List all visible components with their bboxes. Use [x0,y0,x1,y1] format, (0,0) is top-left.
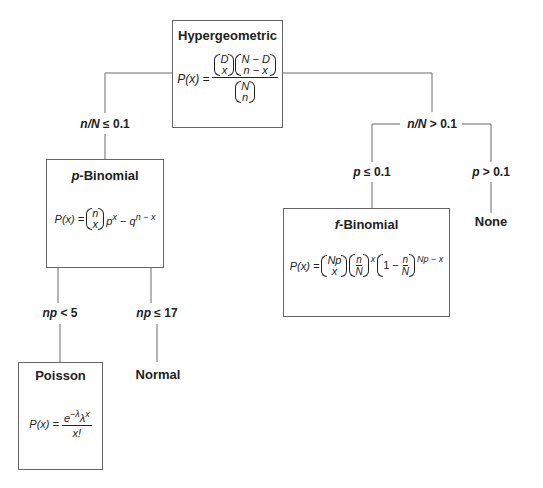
binom-bottom: n − x [244,65,268,76]
edge-label-n-over-N-gt: n/N > 0.1 [404,117,460,131]
binom-bottom: x [332,266,338,277]
node-hypergeometric: Hypergeometric P(x) = D x N − D n − x N [172,20,283,128]
binomial-coefficient: D x [214,54,234,76]
denominator: x! [73,426,82,439]
node-poisson: Poisson P(x) = e−λλx x! [18,362,103,470]
num-exponent: −λ [70,409,80,419]
binomial-coefficient: N − D n − x [235,54,275,76]
frac-denominator: N [355,266,362,277]
binom-bottom: x [222,65,228,76]
hypergeometric-formula: P(x) = D x N − D n − x N n [173,54,282,103]
poisson-formula: P(x) = e−λλx x! [19,409,102,439]
edge-label-p-le: p ≤ 0.1 [350,165,393,179]
node-title: p-Binomial [47,168,163,183]
label-op: ≤ 0.1 [100,117,130,131]
fraction-paren: n N [349,254,368,277]
label-op: ≤ 0.1 [361,165,391,179]
leaf-normal: Normal [136,367,181,382]
node-title: Poisson [19,368,102,383]
title-suffix: -Binomial [79,168,138,183]
operator: − [117,214,130,226]
formula-lhs: P(x) = [290,260,320,272]
label-var: n/N [407,117,426,131]
one-minus: 1 − [383,260,399,271]
edge-label-n-over-N-le: n/N ≤ 0.1 [77,117,132,131]
label-op: > 0.1 [426,117,456,131]
node-title: f-Binomial [284,217,449,232]
one-minus-paren: 1 − n N [377,254,415,277]
p-binomial-formula: P(x) = n x px − qn − x [47,208,163,230]
binom-bottom: n [242,92,248,103]
binom-top: Np [327,255,341,266]
formula-fraction: e−λλx x! [62,409,92,439]
f-binomial-formula: P(x) = Np x n N x 1 − n N Np − x [284,254,449,277]
binomial-coefficient: N n [235,81,255,103]
binomial-coefficient: Np x [321,255,347,277]
node-f-binomial: f-Binomial P(x) = Np x n N x 1 − n N Np … [283,208,450,317]
frac-numerator: n [403,254,409,266]
formula-lhs: P(x) = [177,72,209,86]
exponent: x [371,254,376,264]
term-exponent: n − x [136,212,156,222]
formula-lhs: P(x) = [29,418,59,430]
edge-label-p-gt: p > 0.1 [469,165,513,179]
binomial-coefficient: n x [86,208,104,230]
leaf-none: None [475,214,508,229]
decision-tree-diagram: Hypergeometric P(x) = D x N − D n − x N [0,0,543,488]
node-p-binomial: p-Binomial P(x) = n x px − qn − x [46,159,164,268]
label-var: np [42,306,57,320]
title-suffix: -Binomial [339,217,398,232]
edge-label-np-lt: np < 5 [39,306,80,320]
edge-label-np-le: np ≤ 17 [133,306,180,320]
label-var: n/N [80,117,99,131]
num-lambda-exponent: x [85,409,90,419]
label-op: ≤ 17 [151,306,178,320]
exponent: Np − x [417,254,443,264]
label-op: > 0.1 [479,165,509,179]
label-op: < 5 [57,306,77,320]
formula-lhs: P(x) = [55,213,85,225]
frac-denominator: N [402,266,409,277]
label-var: np [136,306,151,320]
node-title: Hypergeometric [173,28,282,43]
frac-numerator: n [356,254,362,266]
formula-fraction: D x N − D n − x N n [212,54,277,103]
binom-bottom: x [93,219,99,230]
